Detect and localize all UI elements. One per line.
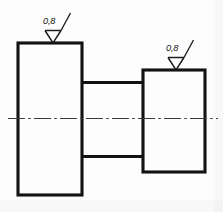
surface-roughness-symbol-right: 0,8 bbox=[166, 40, 194, 70]
roughness-triangle-icon-left bbox=[45, 31, 61, 44]
roughness-value-right: 0,8 bbox=[166, 43, 179, 53]
roughness-triangle-icon-right bbox=[168, 58, 184, 71]
roughness-value-left: 0,8 bbox=[43, 16, 56, 26]
roughness-leader-line-left bbox=[61, 13, 71, 31]
technical-drawing-canvas: 0,8 0,8 bbox=[0, 0, 223, 212]
surface-roughness-symbol-left: 0,8 bbox=[43, 13, 71, 43]
drawing-viewport: 0,8 0,8 bbox=[0, 0, 223, 212]
right-boss-rectangle bbox=[143, 70, 205, 172]
roughness-leader-line-right bbox=[184, 40, 194, 58]
